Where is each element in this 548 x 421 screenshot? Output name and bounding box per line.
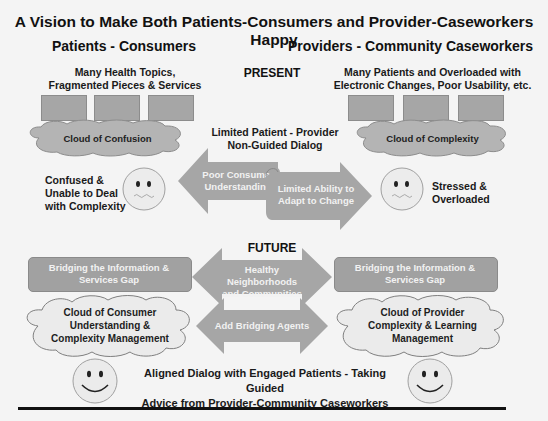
patient-block bbox=[458, 95, 504, 121]
limited-ability-label: Limited Ability to Adapt to Change bbox=[272, 183, 360, 207]
patient-block bbox=[348, 95, 394, 121]
bottom-divider bbox=[18, 407, 506, 410]
aligned-dialog-label: Aligned Dialog with Engaged Patients - T… bbox=[125, 366, 405, 411]
smiley-face-icon bbox=[72, 358, 118, 404]
cloud-of-confusion-label: Cloud of Confusion bbox=[40, 133, 175, 145]
topic-block bbox=[94, 95, 140, 121]
topic-block bbox=[41, 95, 87, 121]
present-section-label: PRESENT bbox=[222, 66, 322, 80]
left-column-heading: Patients - Consumers bbox=[52, 38, 196, 54]
right-bridging-label: Bridging the Information & Services Gap bbox=[334, 262, 496, 286]
worried-face-icon bbox=[122, 167, 166, 211]
right-present-heading: Many Patients and Overloaded with Electr… bbox=[325, 66, 540, 92]
smiley-face-icon bbox=[407, 358, 453, 404]
right-column-heading: Providers - Community Caseworkers bbox=[288, 38, 533, 54]
patient-block bbox=[403, 95, 449, 121]
healthy-neighborhoods-label: Healthy Neighborhoods and Communities bbox=[212, 264, 312, 300]
consumer-cloud-label: Cloud of Consumer Understanding & Comple… bbox=[30, 306, 190, 345]
stressed-caption: Stressed & Overloaded bbox=[432, 180, 532, 206]
topic-block bbox=[148, 95, 194, 121]
left-present-heading: Many Health Topics, Fragmented Pieces & … bbox=[30, 66, 220, 92]
worried-face-icon bbox=[380, 167, 424, 211]
left-bridging-label: Bridging the Information & Services Gap bbox=[28, 262, 190, 286]
bridging-agents-label: Add Bridging Agents bbox=[212, 320, 312, 332]
provider-cloud-label: Cloud of Provider Complexity & Learning … bbox=[340, 306, 505, 345]
cloud-of-complexity-label: Cloud of Complexity bbox=[365, 133, 500, 145]
